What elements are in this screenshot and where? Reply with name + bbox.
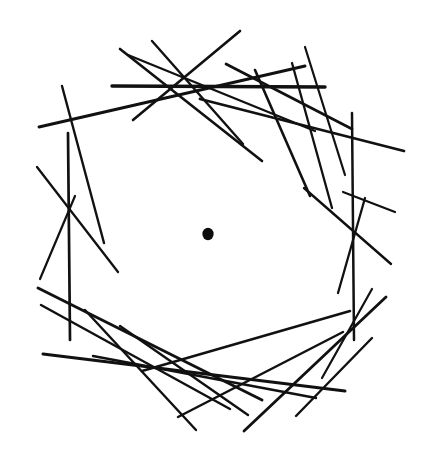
center-dot	[202, 228, 213, 240]
tangent-envelope-figure	[0, 0, 423, 467]
figure-canvas	[0, 0, 423, 467]
center-dot-group	[202, 228, 213, 240]
